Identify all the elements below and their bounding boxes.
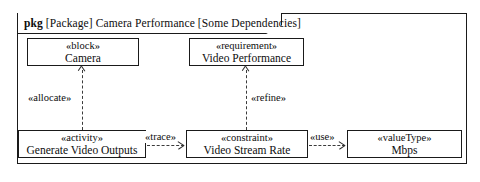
node-block-stereotype: «block» [66,40,100,52]
edge-label-allocate: «allocate» [27,92,72,104]
package-qualifier: [Package] [46,17,93,29]
node-activity-stereotype: «activity» [61,132,103,144]
edge-refine-arrowhead-icon [242,66,251,73]
package-keyword: pkg [24,17,43,29]
edge-label-use: «use» [309,131,336,143]
edge-allocate-arrowhead-icon [78,66,87,73]
node-requirement-name: Video Performance [202,52,291,65]
edge-use-arrowhead-icon [338,140,346,150]
node-constraint-video-stream-rate[interactable]: «constraint» Video Stream Rate [186,130,308,158]
node-block-name: Camera [65,52,101,65]
edge-allocate-line [82,70,83,130]
node-activity-generate-video-outputs[interactable]: «activity» Generate Video Outputs [18,130,146,158]
node-valuetype-name: Mbps [391,144,417,157]
node-requirement-stereotype: «requirement» [216,40,277,52]
package-diagram: pkg [Package] Camera Performance [Some D… [0,0,480,182]
edge-label-trace: «trace» [144,131,177,143]
package-name: Camera Performance [96,17,195,29]
package-view: [Some Dependencies] [198,17,301,29]
node-requirement-video-performance[interactable]: «requirement» Video Performance [189,38,304,66]
package-header-label: pkg [Package] Camera Performance [Some D… [24,14,301,33]
node-activity-name: Generate Video Outputs [27,144,138,157]
node-constraint-name: Video Stream Rate [204,144,291,157]
node-block-camera[interactable]: «block» Camera [27,38,139,66]
node-constraint-stereotype: «constraint» [221,132,273,144]
edge-label-refine: «refine» [250,92,287,104]
edge-refine-line [246,70,247,130]
node-valuetype-stereotype: «valueType» [377,132,431,144]
edge-trace-arrowhead-icon [177,140,185,150]
node-valuetype-mbps[interactable]: «valueType» Mbps [347,130,462,158]
